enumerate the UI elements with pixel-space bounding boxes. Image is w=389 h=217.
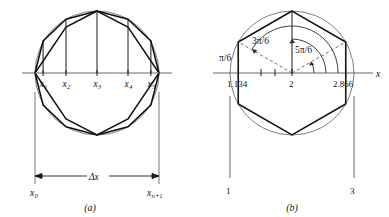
label-x2: x2 <box>62 79 72 90</box>
arrowhead-left <box>35 173 42 178</box>
label-x0: x0 <box>29 188 39 199</box>
label-angle-5pi-6: 5π/6 <box>295 45 312 55</box>
label-value-1134: 1.134 <box>227 79 248 89</box>
label-angle-3pi-6: 3π/6 <box>252 36 269 46</box>
label-xn1: xn+1 <box>146 188 163 199</box>
label-angle-pi-6: π/6 <box>219 53 231 63</box>
angle-arc-5pi-6-arrowhead <box>252 49 257 54</box>
figure-root: x1 x2 x3 x4 x5 Δx x0 xn+1 (a) <box>0 0 389 217</box>
panel-b-diagram: x π/6 3π/6 5π/6 1.134 2 2.86 <box>195 0 389 217</box>
label-value-2866: 2.866 <box>333 79 354 89</box>
label-x3: x3 <box>93 79 103 90</box>
label-endpoint-3: 3 <box>350 186 355 196</box>
caption-b: (b) <box>286 202 298 214</box>
arrowhead-right <box>152 173 159 178</box>
label-x1: x1 <box>39 79 48 90</box>
angle-arc-3pi-6-arrowhead <box>289 39 295 44</box>
caption-a: (a) <box>84 202 96 214</box>
label-endpoint-1: 1 <box>226 186 231 196</box>
label-x4: x4 <box>124 79 134 90</box>
dashed-radius-pi-6 <box>238 42 292 73</box>
label-value-2: 2 <box>289 79 294 89</box>
label-axis-x: x <box>375 69 381 79</box>
label-delta-x: Δx <box>88 172 100 182</box>
panel-a-diagram: x1 x2 x3 x4 x5 Δx x0 xn+1 (a) <box>0 0 195 217</box>
